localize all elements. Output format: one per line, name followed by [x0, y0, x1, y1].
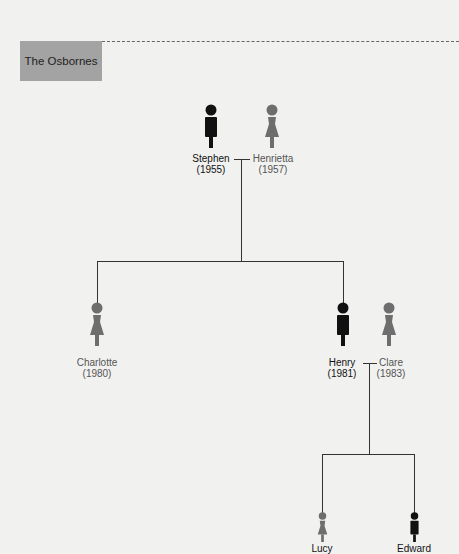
person-lucy: Lucy: [302, 543, 342, 554]
male-person-icon: [335, 302, 351, 346]
sibling-line: [97, 261, 344, 262]
person-stephen: Stephen(1955): [188, 153, 234, 175]
male-person-icon: [409, 512, 420, 542]
sibling-line: [322, 454, 415, 455]
female-person-icon: [317, 512, 328, 542]
female-person-icon: [264, 104, 280, 148]
female-person-icon: [89, 302, 105, 346]
female-person-icon: [381, 302, 397, 346]
marriage-line: [234, 159, 250, 160]
family-title: The Osbornes: [20, 41, 102, 81]
person-edward: Edward: [394, 543, 434, 554]
child-line: [343, 261, 344, 303]
marriage-line: [363, 363, 377, 364]
male-person-icon: [203, 104, 219, 148]
descent-line: [241, 159, 242, 262]
person-charlotte: Charlotte(1980): [72, 357, 122, 379]
header-divider: [102, 41, 459, 42]
descent-line: [369, 363, 370, 455]
child-line: [97, 261, 98, 303]
person-henrietta: Henrietta(1957): [248, 153, 298, 175]
person-clare: Clare(1983): [375, 357, 407, 379]
child-line: [414, 454, 415, 513]
person-henry: Henry(1981): [322, 357, 362, 379]
child-line: [322, 454, 323, 513]
